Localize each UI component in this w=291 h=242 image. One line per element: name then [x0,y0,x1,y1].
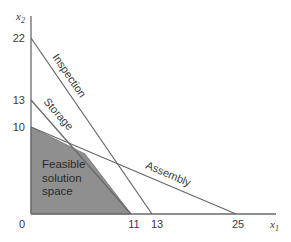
storage-label: Storage [41,95,75,132]
x-tick-25: 25 [232,218,244,230]
y-tick-13: 13 [13,94,25,106]
feasible-region [31,127,131,214]
x-tick-13: 13 [151,218,163,230]
y-tick-10: 10 [13,121,25,133]
y-axis-label: x2 [15,10,25,25]
x-axis-label: x1 [269,218,279,233]
y-tick-22: 22 [13,32,25,44]
origin-label: 0 [19,218,25,230]
x-tick-11: 11 [128,218,139,230]
linear-programming-chart: 22 13 10 0 11 13 25 x2 x1 Inspection Sto… [0,0,291,242]
assembly-label: Assembly [144,159,193,189]
